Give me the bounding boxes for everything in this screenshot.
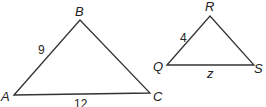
similar-triangles-diagram: A B C 9 12 Q R S 4 z (0, 0, 266, 107)
vertex-label-r: R (205, 0, 214, 14)
side-label-ab: 9 (38, 43, 45, 57)
vertex-label-a: A (0, 89, 10, 104)
side-label-qs: z (206, 66, 214, 81)
vertex-label-s: S (254, 61, 263, 76)
vertex-label-q: Q (153, 59, 163, 74)
vertex-label-c: C (153, 89, 163, 104)
triangle-abc (14, 20, 150, 95)
vertex-label-b: B (75, 4, 84, 19)
side-label-ac: 12 (74, 97, 88, 107)
side-label-qr: 4 (180, 31, 187, 45)
